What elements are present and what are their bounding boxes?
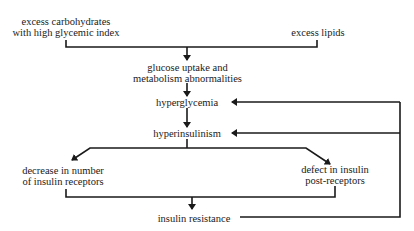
node-label-line2: metabolism abnormalities [130, 73, 245, 84]
node-label-line1: hyperinsulinism [142, 128, 232, 139]
node-label-line2: with high glycemic index [10, 27, 122, 38]
node-label-line1: decrease in number [18, 165, 108, 176]
node-label-line1: excess lipids [283, 27, 353, 38]
feedback-line [240, 102, 400, 217]
node-label-line1: glucose uptake and [130, 62, 245, 73]
node-glucose-uptake: glucose uptake and metabolism abnormalit… [130, 62, 245, 84]
node-label-line1: excess carbohydrates [10, 16, 122, 27]
node-hyperglycemia: hyperglycemia [147, 97, 227, 108]
node-decrease-receptors: decrease in number of insulin receptors [18, 165, 108, 187]
edge-to-receptors [72, 148, 187, 160]
node-label-line1: defect in insulin [294, 164, 376, 175]
node-insulin-resistance: insulin resistance [152, 213, 236, 224]
edge-to-postreceptors [187, 148, 330, 164]
node-label-line1: hyperglycemia [147, 97, 227, 108]
edge-bottom-merge [66, 186, 335, 197]
node-defect-post-receptors: defect in insulin post-receptors [294, 164, 376, 186]
edge-carbs-merge [66, 40, 317, 47]
node-label-line2: of insulin receptors [18, 176, 108, 187]
node-excess-lipids: excess lipids [283, 27, 353, 38]
node-label-line1: insulin resistance [152, 213, 236, 224]
node-hyperinsulinism: hyperinsulinism [142, 128, 232, 139]
node-excess-carbohydrates: excess carbohydrates with high glycemic … [10, 16, 122, 38]
node-label-line2: post-receptors [294, 175, 376, 186]
